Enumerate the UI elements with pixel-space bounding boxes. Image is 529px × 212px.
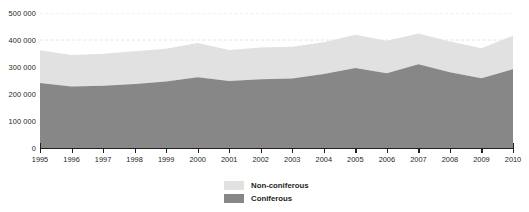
- x-axis-tick: [481, 148, 482, 153]
- x-axis-tick-label: 2006: [379, 155, 395, 164]
- y-axis-tick-label: 100 000: [9, 117, 36, 126]
- y-axis-tick-label: 500 000: [9, 9, 36, 18]
- chart-legend: Non-coniferous Coniferous: [224, 180, 309, 206]
- x-axis-tick: [324, 148, 325, 153]
- x-axis-tick-label: 1999: [158, 155, 174, 164]
- legend-swatch-non-coniferous: [224, 181, 244, 190]
- x-axis-tick: [229, 148, 230, 153]
- x-axis-tick-label: 2007: [410, 155, 426, 164]
- x-axis-tick-label: 2009: [473, 155, 489, 164]
- x-axis-tick: [166, 148, 167, 153]
- y-axis-tick-label: 400 000: [9, 36, 36, 45]
- x-axis-tick-label: 1997: [95, 155, 111, 164]
- area-chart-svg: [40, 13, 513, 148]
- x-axis-tick: [355, 148, 356, 153]
- legend-item-non-coniferous: Non-coniferous: [224, 180, 309, 191]
- x-axis-tick: [135, 148, 136, 153]
- y-axis-tick-label: 300 000: [9, 63, 36, 72]
- x-axis-tick-label: 1998: [126, 155, 142, 164]
- y-axis-labels: 0100 000200 000300 000400 000500 000: [0, 0, 36, 162]
- x-axis-tick: [261, 148, 262, 153]
- x-axis-tick: [450, 148, 451, 153]
- axis-end-cap: [40, 143, 41, 149]
- stacked-area-chart: 0100 000200 000300 000400 000500 000 199…: [0, 0, 529, 212]
- axis-end-cap: [513, 143, 514, 149]
- x-axis-line: [40, 148, 513, 149]
- x-axis-tick: [418, 148, 419, 153]
- x-axis-tick: [72, 148, 73, 153]
- x-axis-tick-label: 2008: [442, 155, 458, 164]
- x-axis-tick-label: 2003: [284, 155, 300, 164]
- x-axis-tick: [387, 148, 388, 153]
- x-axis-tick-label: 2001: [221, 155, 237, 164]
- x-axis-tick-label: 2005: [347, 155, 363, 164]
- legend-item-coniferous: Coniferous: [224, 193, 309, 204]
- x-axis-tick: [198, 148, 199, 153]
- y-axis-tick-label: 0: [32, 144, 36, 153]
- legend-swatch-coniferous: [224, 194, 244, 203]
- x-axis-tick-label: 2010: [505, 155, 521, 164]
- legend-label-non-coniferous: Non-coniferous: [251, 182, 309, 190]
- plot-area: [40, 13, 513, 148]
- x-axis-tick: [292, 148, 293, 153]
- x-axis-tick-label: 1995: [32, 155, 48, 164]
- x-axis-tick-label: 1996: [63, 155, 79, 164]
- y-axis-tick-label: 200 000: [9, 90, 36, 99]
- x-axis-tick-label: 2002: [252, 155, 268, 164]
- x-axis-tick-label: 2004: [316, 155, 332, 164]
- legend-label-coniferous: Coniferous: [251, 195, 292, 203]
- x-axis-tick: [103, 148, 104, 153]
- x-axis-tick-label: 2000: [189, 155, 205, 164]
